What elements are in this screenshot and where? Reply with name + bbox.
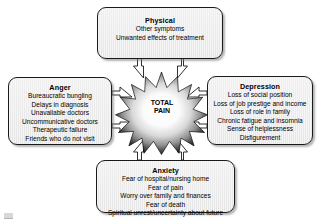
arrow-physical-to-center-2 — [178, 58, 188, 78]
box-depression-item-2: Loss of role in family — [208, 108, 312, 117]
box-anxiety-item-4: Spiritual unrest/uncertainty about futur… — [97, 209, 234, 218]
box-depression[interactable]: Depression Loss of social position Loss … — [207, 76, 313, 145]
box-anxiety-item-1: Fear of pain — [97, 184, 234, 193]
box-anger-items: Bureaucratic bungling Delays in diagnosi… — [9, 92, 111, 144]
box-anger-item-1: Delays in diagnosis — [9, 101, 111, 110]
box-anger-item-3: Uncommunicative doctors — [9, 118, 111, 127]
box-physical-title: Physical — [98, 16, 222, 25]
arrow-anxiety-to-center-1 — [134, 140, 144, 160]
box-depression-item-5: Disfigurement — [208, 134, 312, 143]
box-anger-item-4: Therapeutic failure — [9, 126, 111, 135]
box-depression-items: Loss of social position Loss of job pres… — [208, 91, 312, 143]
box-anger-item-0: Bureaucratic bungling — [9, 92, 111, 101]
arrow-depression-to-center-1 — [187, 87, 207, 97]
total-pain-label-line2: PAIN — [139, 107, 185, 115]
arrow-depression-to-center-2 — [187, 122, 207, 132]
box-physical-items: Other symptoms Unwanted effects of treat… — [98, 25, 222, 42]
box-anxiety-item-3: Fear of death — [97, 201, 234, 210]
box-physical[interactable]: Physical Other symptoms Unwanted effects… — [97, 7, 223, 59]
box-physical-item-1: Unwanted effects of treatment — [98, 34, 222, 43]
box-depression-item-0: Loss of social position — [208, 91, 312, 100]
box-depression-item-4: Sense of helplessness — [208, 125, 312, 134]
total-pain-diagram: TOTAL PAIN Physical Other symptoms Unwan… — [0, 0, 319, 221]
box-anger-item-2: Unavailable doctors — [9, 109, 111, 118]
arrow-anxiety-to-center-2 — [178, 140, 188, 160]
box-anxiety-item-0: Fear of hospital/nursing home — [97, 175, 234, 184]
arrow-anger-to-center-2 — [112, 122, 132, 132]
box-anger-item-5: Friends who do not visit — [9, 135, 111, 144]
box-depression-item-1: Loss of job prestige and income — [208, 100, 312, 109]
total-pain-label: TOTAL PAIN — [139, 99, 185, 115]
box-anxiety-items: Fear of hospital/nursing home Fear of pa… — [97, 175, 234, 218]
total-pain-label-line1: TOTAL — [139, 99, 185, 107]
box-anxiety[interactable]: Anxiety Fear of hospital/nursing home Fe… — [96, 160, 235, 213]
box-anxiety-item-2: Worry over family and finances — [97, 192, 234, 201]
box-anger[interactable]: Anger Bureaucratic bungling Delays in di… — [8, 77, 112, 145]
arrow-physical-to-center-1 — [134, 58, 144, 78]
arrow-anger-to-center-1 — [112, 87, 132, 97]
box-anxiety-title: Anxiety — [97, 166, 234, 175]
box-physical-item-0: Other symptoms — [98, 25, 222, 34]
box-depression-title: Depression — [208, 82, 312, 91]
box-depression-item-3: Chronic fatigue and insomnia — [208, 117, 312, 126]
corner-mark — [4, 213, 13, 219]
box-anger-title: Anger — [9, 83, 111, 92]
